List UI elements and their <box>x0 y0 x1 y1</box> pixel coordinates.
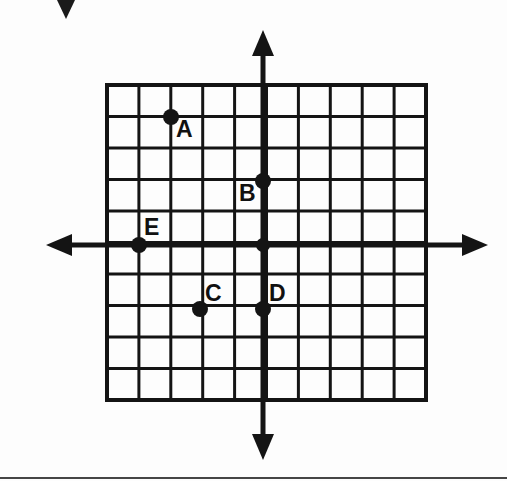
point-label-b: B <box>239 182 256 205</box>
figure-page: A B C D E <box>0 0 507 481</box>
point-label-a: A <box>176 118 193 141</box>
point-label-c: C <box>205 282 222 305</box>
coordinate-plane-svg <box>0 0 507 481</box>
data-points <box>131 109 271 317</box>
coordinate-plane-figure: A B C D E <box>0 0 507 481</box>
point-label-e: E <box>144 216 159 239</box>
point-label-d: D <box>269 282 286 305</box>
page-bottom-rule <box>0 477 507 479</box>
